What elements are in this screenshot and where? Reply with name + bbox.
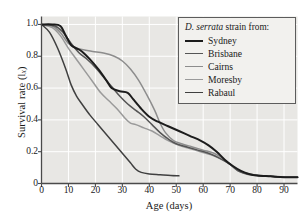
legend-item-label: Moresby xyxy=(208,74,242,85)
legend-swatch-icon xyxy=(185,66,203,67)
x-axis-title: Age (days) xyxy=(41,200,297,211)
x-tick-label: 30 xyxy=(110,186,134,196)
y-axis-title-suffix: ) xyxy=(16,66,27,70)
legend-item-label: Brisbane xyxy=(208,48,242,59)
x-tick-label: 50 xyxy=(164,186,188,196)
legend-swatch-icon xyxy=(185,40,203,42)
legend-item-label: Rabaul xyxy=(208,87,235,98)
x-tick-label: 20 xyxy=(83,186,107,196)
legend-item-moresby: Moresby xyxy=(185,73,290,86)
x-tick-label: 60 xyxy=(191,186,215,196)
legend-swatch-icon xyxy=(185,92,203,93)
x-tick-label: 0 xyxy=(30,186,54,196)
y-axis-title-subscript: x xyxy=(19,70,28,73)
legend-item-rabaul: Rabaul xyxy=(185,86,290,99)
legend-title: D. serrata strain from: xyxy=(185,22,290,33)
legend-item-brisbane: Brisbane xyxy=(185,47,290,60)
legend-item-cairns: Cairns xyxy=(185,60,290,73)
x-tick-label: 90 xyxy=(272,186,296,196)
legend-swatch-icon xyxy=(185,79,203,80)
legend-item-label: Sydney xyxy=(208,35,237,46)
legend-swatch-icon xyxy=(185,53,203,54)
legend-item-sydney: Sydney xyxy=(185,34,290,47)
legend-title-text: strain from: xyxy=(223,22,269,32)
y-axis-title: Survival rate (lx) xyxy=(16,22,28,182)
x-tick-label: 40 xyxy=(137,186,161,196)
x-tick-label: 10 xyxy=(56,186,80,196)
legend-items: SydneyBrisbaneCairnsMoresbyRabaul xyxy=(185,34,290,99)
x-tick-label: 80 xyxy=(245,186,269,196)
legend-box: D. serrata strain from: SydneyBrisbaneCa… xyxy=(178,17,296,104)
y-axis-title-main: Survival rate (l xyxy=(16,73,27,138)
legend-item-label: Cairns xyxy=(208,61,233,72)
survival-rate-chart: 00.20.40.60.81.0 0102030405060708090 Sur… xyxy=(0,0,305,219)
x-tick-label: 70 xyxy=(218,186,242,196)
legend-title-species: D. serrata xyxy=(185,22,223,32)
